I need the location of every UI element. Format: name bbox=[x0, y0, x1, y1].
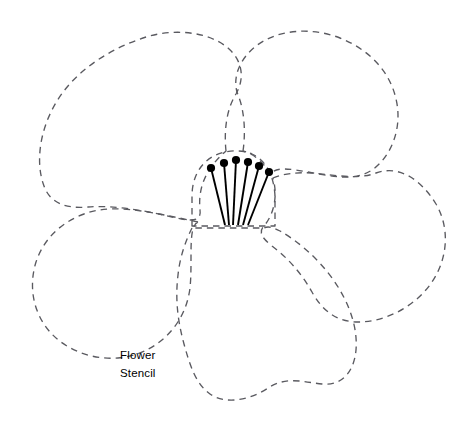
canvas-background bbox=[0, 0, 470, 422]
caption-line-flower: Flower bbox=[120, 349, 155, 361]
stamen-anther-dot-2 bbox=[220, 159, 228, 167]
flower-stencil-illustration: Flower Stencil bbox=[0, 0, 470, 422]
stamen-anther-dot-6 bbox=[265, 168, 273, 176]
stamen-anther-dot-3 bbox=[232, 156, 240, 164]
stamen-anther-dot-4 bbox=[244, 158, 252, 166]
stamen-anther-dot-1 bbox=[207, 164, 215, 172]
stamen-anther-dot-5 bbox=[255, 162, 263, 170]
caption-line-stencil: Stencil bbox=[120, 367, 156, 379]
